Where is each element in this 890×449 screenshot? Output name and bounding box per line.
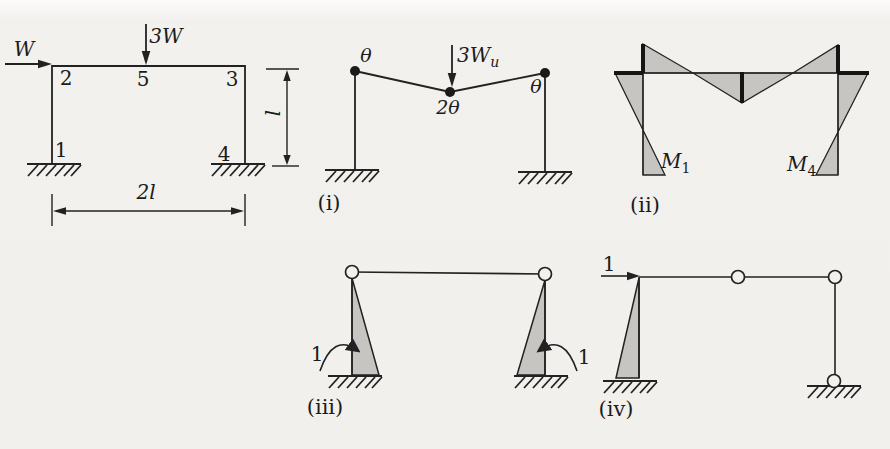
fixed-support-left-icon bbox=[27, 164, 81, 176]
right-column-moment-base bbox=[816, 132, 838, 175]
node-4-label: 4 bbox=[218, 144, 231, 164]
moment-m4-label: M4 bbox=[787, 154, 816, 178]
right-column-moment-triangle bbox=[517, 280, 545, 375]
fixed-support-right-icon bbox=[518, 172, 572, 184]
support-left-icon bbox=[328, 376, 382, 388]
height-dim-label: l bbox=[263, 110, 283, 116]
figure-canvas: W 3W 2 5 3 1 4 l 2l θ 3Wu 2θ θ (i) M1 M4… bbox=[0, 0, 890, 449]
beam-moment-right-triangle bbox=[793, 45, 838, 73]
fixed-support-left-icon bbox=[325, 170, 379, 182]
pin-base-right-icon bbox=[828, 375, 841, 388]
dim-arrowhead-down-icon bbox=[283, 155, 290, 165]
load-w-label: W bbox=[14, 39, 35, 59]
hinge-beam-mid-icon bbox=[732, 271, 745, 284]
unit-moment-right-label: 1 bbox=[578, 347, 591, 367]
diagram-layer bbox=[0, 0, 890, 449]
pin-joint-right-icon bbox=[539, 268, 552, 281]
moment-m1-label: M1 bbox=[661, 151, 690, 175]
node-5-label: 5 bbox=[137, 69, 150, 89]
load-3wu-label: 3Wu bbox=[457, 45, 499, 69]
plastic-hinge-left-icon bbox=[350, 66, 360, 76]
theta-mid-label: 2θ bbox=[436, 98, 460, 117]
node-1-label: 1 bbox=[55, 140, 68, 160]
dim-arrowhead-up-icon bbox=[283, 70, 290, 81]
hinge-beam-right-icon bbox=[829, 271, 842, 284]
beam-moment-left-triangle bbox=[643, 44, 693, 73]
unit-load-diagram bbox=[601, 271, 861, 399]
caption-iv: (iv) bbox=[599, 399, 634, 420]
support-left-icon bbox=[603, 381, 657, 393]
caption-i: (i) bbox=[317, 193, 340, 214]
beam bbox=[352, 272, 545, 274]
collapse-load-arrow-icon bbox=[448, 45, 457, 87]
support-right-icon bbox=[514, 376, 568, 388]
bending-moment-diagram bbox=[614, 44, 869, 175]
caption-ii: (ii) bbox=[630, 195, 660, 216]
unit-rotation-diagram bbox=[320, 266, 577, 389]
right-column-moment-top bbox=[838, 73, 868, 132]
left-column-moment-top bbox=[615, 73, 643, 130]
node-2-label: 2 bbox=[60, 68, 73, 88]
load-3w-label: 3W bbox=[149, 26, 182, 46]
unit-load-label: 1 bbox=[603, 254, 616, 274]
left-column-moment-triangle bbox=[616, 278, 639, 378]
node-3-label: 3 bbox=[226, 69, 239, 89]
span-dim-label: 2l bbox=[136, 182, 155, 202]
left-column-moment-triangle bbox=[352, 278, 379, 375]
dim-arrowhead-left-icon bbox=[53, 207, 66, 214]
unit-moment-left-label: 1 bbox=[311, 344, 324, 364]
theta-left-label: θ bbox=[360, 46, 371, 65]
theta-right-label: θ bbox=[530, 77, 541, 96]
pin-joint-left-icon bbox=[346, 266, 359, 279]
height-dimension bbox=[266, 69, 299, 166]
caption-iii: (iii) bbox=[307, 397, 344, 418]
dim-arrowhead-right-icon bbox=[231, 207, 244, 214]
